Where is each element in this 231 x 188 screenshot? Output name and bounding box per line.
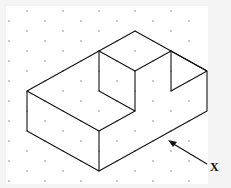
isometric-drawing: X [0,0,231,188]
block-outline [27,31,207,171]
view-arrow [168,140,207,164]
view-label: X [210,160,219,174]
diagram-canvas: X [0,0,231,188]
